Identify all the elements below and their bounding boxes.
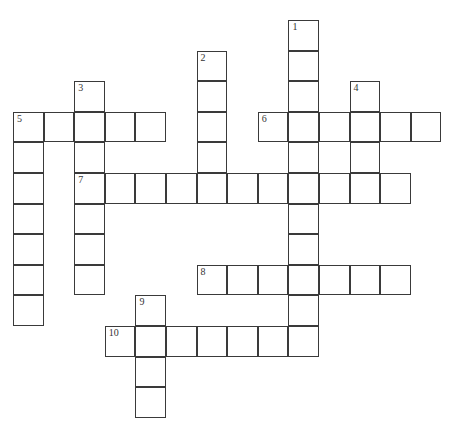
crossword-cell[interactable] xyxy=(288,295,319,326)
crossword-cell[interactable] xyxy=(13,295,44,326)
crossword-cell[interactable] xyxy=(350,112,381,143)
crossword-cell[interactable] xyxy=(350,142,381,173)
crossword-cell[interactable] xyxy=(380,173,411,204)
clue-number: 3 xyxy=(78,83,83,93)
crossword-cell[interactable] xyxy=(350,265,381,296)
crossword-cell[interactable] xyxy=(105,173,136,204)
crossword-cell[interactable] xyxy=(13,142,44,173)
crossword-cell[interactable]: 6 xyxy=(258,112,289,143)
crossword-cell[interactable] xyxy=(74,234,105,265)
crossword-cell[interactable] xyxy=(74,112,105,143)
crossword-cell[interactable] xyxy=(44,112,75,143)
crossword-cell[interactable] xyxy=(13,265,44,296)
crossword-cell[interactable] xyxy=(166,173,197,204)
crossword-cell[interactable] xyxy=(350,173,381,204)
crossword-cell[interactable] xyxy=(288,326,319,357)
crossword-cell[interactable] xyxy=(74,142,105,173)
clue-number: 6 xyxy=(262,114,267,124)
crossword-cell[interactable] xyxy=(227,265,258,296)
crossword-cell[interactable]: 8 xyxy=(197,265,228,296)
crossword-cell[interactable] xyxy=(288,234,319,265)
crossword-cell[interactable]: 1 xyxy=(288,20,319,51)
crossword-cell[interactable] xyxy=(288,265,319,296)
crossword-cell[interactable] xyxy=(135,357,166,388)
crossword-grid: 12374568910 xyxy=(0,0,455,435)
crossword-cell[interactable] xyxy=(135,326,166,357)
crossword-cell[interactable] xyxy=(288,173,319,204)
crossword-cell[interactable] xyxy=(288,204,319,235)
crossword-cell[interactable]: 7 xyxy=(74,173,105,204)
crossword-cell[interactable] xyxy=(197,173,228,204)
clue-number: 2 xyxy=(201,53,206,63)
crossword-cell[interactable] xyxy=(258,173,289,204)
crossword-cell[interactable] xyxy=(288,142,319,173)
crossword-cell[interactable] xyxy=(258,326,289,357)
clue-number: 5 xyxy=(17,114,22,124)
crossword-cell[interactable] xyxy=(319,265,350,296)
crossword-cell[interactable] xyxy=(227,326,258,357)
crossword-cell[interactable]: 3 xyxy=(74,81,105,112)
crossword-cell[interactable] xyxy=(74,265,105,296)
crossword-cell[interactable] xyxy=(258,265,289,296)
crossword-cell[interactable]: 10 xyxy=(105,326,136,357)
crossword-cell[interactable] xyxy=(135,112,166,143)
crossword-cell[interactable] xyxy=(13,234,44,265)
crossword-cell[interactable] xyxy=(13,173,44,204)
crossword-cell[interactable] xyxy=(74,204,105,235)
crossword-cell[interactable]: 4 xyxy=(350,81,381,112)
crossword-cell[interactable] xyxy=(197,112,228,143)
clue-number: 9 xyxy=(139,297,144,307)
crossword-cell[interactable] xyxy=(380,265,411,296)
crossword-cell[interactable] xyxy=(197,81,228,112)
crossword-cell[interactable] xyxy=(411,112,442,143)
clue-number: 10 xyxy=(109,328,119,338)
crossword-cell[interactable]: 9 xyxy=(135,295,166,326)
crossword-cell[interactable] xyxy=(197,142,228,173)
crossword-cell[interactable] xyxy=(105,112,136,143)
crossword-cell[interactable] xyxy=(319,173,350,204)
crossword-cell[interactable] xyxy=(13,204,44,235)
crossword-cell[interactable] xyxy=(166,326,197,357)
crossword-cell[interactable] xyxy=(197,326,228,357)
crossword-cell[interactable]: 2 xyxy=(197,51,228,82)
clue-number: 7 xyxy=(78,175,83,185)
crossword-cell[interactable] xyxy=(288,51,319,82)
crossword-cell[interactable] xyxy=(135,173,166,204)
crossword-cell[interactable] xyxy=(380,112,411,143)
crossword-cell[interactable] xyxy=(135,387,166,418)
crossword-cell[interactable]: 5 xyxy=(13,112,44,143)
crossword-cell[interactable] xyxy=(288,112,319,143)
crossword-cell[interactable] xyxy=(227,173,258,204)
crossword-cell[interactable] xyxy=(288,81,319,112)
clue-number: 1 xyxy=(292,22,297,32)
clue-number: 4 xyxy=(354,83,359,93)
clue-number: 8 xyxy=(201,267,206,277)
crossword-cell[interactable] xyxy=(319,112,350,143)
